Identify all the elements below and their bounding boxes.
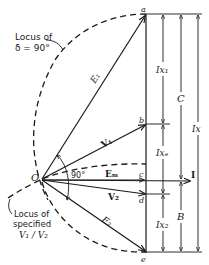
locus-delta-label-1: Locus of bbox=[15, 32, 53, 42]
locus-ratio-leader bbox=[9, 199, 12, 214]
dim-label-Ix2: Ix₂ bbox=[155, 220, 169, 230]
vector-V1 bbox=[42, 125, 145, 179]
locus-ratio-label-1: Locus of bbox=[14, 209, 50, 219]
phasor-diagram: Locus of δ = 90° Locus of specified V₁ /… bbox=[0, 0, 209, 265]
angle-label: 90° bbox=[71, 171, 85, 180]
label-E2: E₂ bbox=[99, 214, 114, 229]
vector-E1 bbox=[42, 16, 145, 179]
dim-label-Ix1: Ix₁ bbox=[155, 65, 168, 75]
dim-label-Ix: Ix bbox=[191, 124, 201, 134]
vector-E2 bbox=[42, 180, 145, 251]
locus-ratio-label-3: V₁ / V₂ bbox=[19, 230, 48, 240]
locus-delta-label-2: δ = 90° bbox=[15, 43, 50, 53]
label-V2: V₂ bbox=[107, 192, 119, 202]
dim-label-B: B bbox=[176, 211, 184, 222]
point-e: e bbox=[141, 255, 146, 264]
label-Em: Eₘ bbox=[105, 169, 119, 179]
point-c: c bbox=[139, 170, 144, 179]
angle-90-arc bbox=[57, 155, 69, 200]
label-I: I bbox=[191, 170, 195, 180]
point-d: d bbox=[139, 196, 144, 205]
point-O: O bbox=[31, 172, 39, 183]
dim-label-Ixe: Ixₑ bbox=[155, 148, 169, 158]
label-E1: E₁ bbox=[88, 71, 102, 86]
vector-V2 bbox=[42, 180, 145, 194]
point-b: b bbox=[139, 116, 144, 125]
dim-label-C: C bbox=[177, 93, 185, 104]
point-a: a bbox=[141, 5, 146, 14]
locus-ratio-label-2: specified bbox=[13, 219, 51, 229]
